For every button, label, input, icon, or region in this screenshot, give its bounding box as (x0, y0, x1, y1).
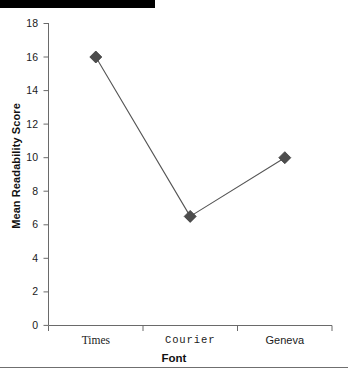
x-tick-label-courier: Courier (142, 334, 238, 346)
bottom-divider (0, 367, 348, 368)
x-axis-title: Font (0, 352, 348, 364)
x-tick-marks (49, 326, 333, 332)
data-point-times (90, 51, 102, 63)
y-tick-marks (44, 24, 49, 326)
y-tick-label-12: 12 (12, 119, 38, 129)
data-point-geneva (279, 152, 291, 164)
x-tick-label-geneva: Geneva (237, 334, 333, 346)
x-tick-label-times: Times (48, 334, 144, 346)
y-tick-label-2: 2 (12, 286, 38, 296)
y-tick-label-18: 18 (12, 18, 38, 28)
y-tick-label-6: 6 (12, 219, 38, 229)
data-point-courier (184, 210, 196, 222)
data-point-markers (90, 51, 291, 222)
y-tick-label-0: 0 (12, 320, 38, 330)
data-line-series-1 (96, 57, 285, 216)
chart-figure: Mean Readability Score 18 16 14 12 10 8 … (0, 0, 348, 378)
y-tick-label-10: 10 (12, 152, 38, 162)
y-tick-label-8: 8 (12, 186, 38, 196)
line-chart-plot (0, 0, 348, 378)
y-tick-label-4: 4 (12, 253, 38, 263)
y-tick-label-16: 16 (12, 52, 38, 62)
y-tick-label-14: 14 (12, 85, 38, 95)
